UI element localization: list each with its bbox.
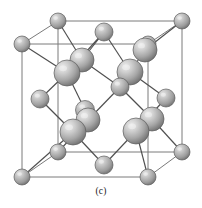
atom-sphere (140, 169, 156, 185)
sphere-highlight (122, 64, 130, 70)
sphere-highlight (75, 53, 82, 58)
atom-corner (140, 169, 156, 185)
atom-sphere (54, 60, 80, 86)
atom-face-center (157, 89, 175, 107)
atom-face-center (31, 90, 49, 108)
sphere-highlight (161, 93, 166, 97)
atom-sphere (157, 89, 175, 107)
sphere-highlight (17, 172, 22, 176)
atom-sphere (174, 13, 190, 29)
atom-sphere (60, 119, 86, 145)
atom-corner (174, 13, 190, 29)
unit-cell-diagram (0, 0, 202, 208)
sphere-highlight (99, 27, 104, 31)
atom-sphere (133, 38, 157, 62)
sphere-highlight (138, 43, 145, 48)
figure-caption: (c) (0, 186, 202, 196)
sphere-highlight (53, 147, 58, 151)
atom-sphere (50, 144, 66, 160)
atom-sphere (31, 90, 49, 108)
sphere-highlight (145, 112, 152, 117)
atom-face-center (95, 156, 113, 174)
sphere-highlight (79, 104, 85, 108)
atom-corner (50, 144, 66, 160)
atom-sphere (95, 23, 113, 41)
sphere-highlight (35, 94, 40, 98)
atom-sphere (14, 169, 30, 185)
crystal-structure-figure: (c) (0, 0, 202, 208)
atom-interior-tetrahedral (123, 118, 149, 144)
atom-sphere (50, 13, 66, 29)
atom-corner (14, 169, 30, 185)
atom-interior-tetrahedral (133, 38, 157, 62)
sphere-highlight (17, 39, 22, 43)
atoms-group (14, 13, 190, 185)
atom-sphere (14, 36, 30, 52)
sphere-highlight (177, 16, 182, 20)
atom-sphere (123, 118, 149, 144)
sphere-highlight (128, 123, 136, 129)
atom-corner (174, 144, 190, 160)
sphere-highlight (99, 160, 104, 164)
sphere-highlight (65, 124, 73, 130)
sphere-highlight (59, 65, 67, 71)
sphere-highlight (143, 172, 148, 176)
sphere-highlight (81, 113, 88, 118)
atom-sphere (111, 78, 129, 96)
atom-corner (50, 13, 66, 29)
atom-interior-tetrahedral (54, 60, 80, 86)
atom-sphere (174, 144, 190, 160)
sphere-highlight (53, 16, 58, 20)
atom-sphere (95, 156, 113, 174)
sphere-highlight (115, 82, 120, 86)
atom-face-center (111, 78, 129, 96)
atom-corner (14, 36, 30, 52)
atom-face-center (95, 23, 113, 41)
atom-interior-tetrahedral (60, 119, 86, 145)
sphere-highlight (177, 147, 182, 151)
